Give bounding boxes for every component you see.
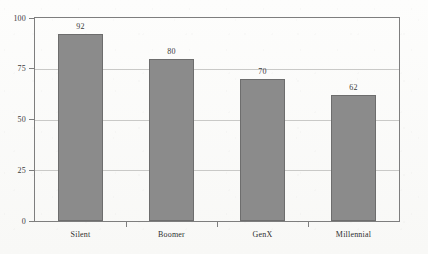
y-tick-label: 100: [13, 14, 29, 23]
y-tick-mark: [29, 68, 34, 69]
y-tick-75: 75: [18, 63, 34, 75]
y-tick-label: 0: [22, 217, 29, 226]
bar-rect[interactable]: [240, 79, 285, 221]
y-tick-mark: [29, 119, 34, 120]
x-category-label-genx: GenX: [217, 230, 308, 239]
bar-boomer[interactable]: 80: [149, 18, 194, 221]
y-tick-mark: [29, 170, 34, 171]
x-tick-mark: [126, 222, 127, 227]
x-category-label-millennial: Millennial: [308, 230, 399, 239]
bar-value-label: 80: [149, 47, 194, 56]
y-tick-0: 0: [22, 215, 34, 227]
x-tick-mark: [308, 222, 309, 227]
y-tick-50: 50: [18, 114, 34, 126]
bar-value-label: 92: [58, 22, 103, 31]
bar-value-label: 62: [331, 83, 376, 92]
y-tick-mark: [29, 18, 34, 19]
y-tick-25: 25: [18, 164, 34, 176]
bar-rect[interactable]: [58, 34, 103, 221]
bar-genx[interactable]: 70: [240, 18, 285, 221]
y-tick-label: 50: [18, 115, 29, 124]
y-tick-label: 25: [18, 166, 29, 175]
bar-value-label: 70: [240, 67, 285, 76]
y-tick-100: 100: [13, 12, 34, 24]
x-axis: SilentBoomerGenXMillennial: [34, 222, 400, 254]
y-axis: 0255075100: [0, 0, 34, 254]
bar-rect[interactable]: [331, 95, 376, 221]
bars-layer: 92807062: [35, 18, 399, 221]
bar-rect[interactable]: [149, 59, 194, 221]
x-tick-mark: [217, 222, 218, 227]
x-category-label-boomer: Boomer: [126, 230, 217, 239]
x-category-label-silent: Silent: [35, 230, 126, 239]
bar-silent[interactable]: 92: [58, 18, 103, 221]
bar-millennial[interactable]: 62: [331, 18, 376, 221]
y-tick-label: 75: [18, 64, 29, 73]
bar-chart-figure: 0255075100 92807062 SilentBoomerGenXMill…: [0, 0, 428, 254]
